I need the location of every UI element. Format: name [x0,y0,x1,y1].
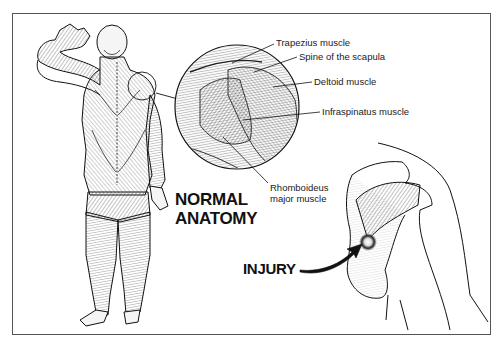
human-figure-back-view [37,24,178,326]
label-infraspinatus-muscle: Infraspinatus muscle [322,107,409,117]
label-spine-of-scapula: Spine of the scapula [299,52,385,62]
title-normal: NORMAL [175,190,248,210]
injury-label: INJURY [243,260,296,277]
magnified-shoulder-inset [170,40,310,185]
label-rhomboideus-line1: Rhomboideus [270,183,329,193]
shoulder-injury-illustration [346,143,488,330]
label-trapezius-muscle: Trapezius muscle [276,38,350,48]
label-rhomboideus-line2: major muscle [270,194,327,204]
title-anatomy: ANATOMY [175,209,257,229]
label-deltoid-muscle: Deltoid muscle [314,77,376,87]
anatomy-illustration [0,0,501,347]
